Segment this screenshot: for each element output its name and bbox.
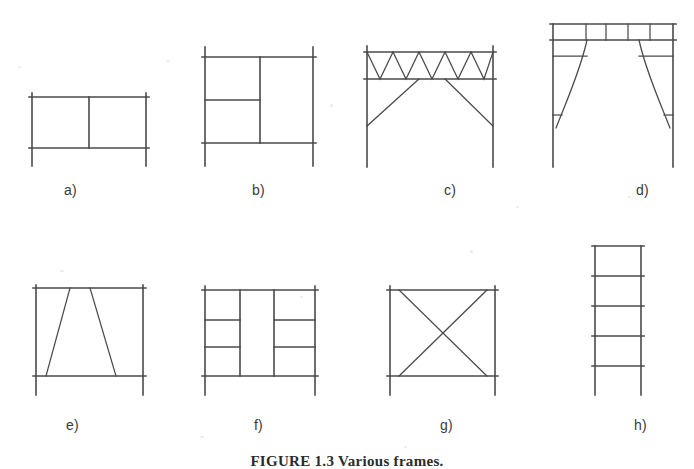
panel-c-truss-girder-frame-with-knee-braces xyxy=(356,40,504,170)
panel-e-frame-with-inverted-v-bracing xyxy=(28,280,152,398)
panel-label-g: g) xyxy=(440,417,453,433)
scan-speck xyxy=(470,250,473,253)
panel-a-single-story-two-bay-frame xyxy=(24,90,154,170)
scan-speck xyxy=(200,436,204,438)
figure-caption: FIGURE 1.3 Various frames. xyxy=(0,452,694,469)
panel-g-x-braced-frame xyxy=(382,282,504,398)
left-diagonal-brace xyxy=(46,288,70,376)
panel-label-a: a) xyxy=(64,182,77,198)
panel-e-drawing xyxy=(28,280,152,398)
scan-speck xyxy=(516,206,519,208)
panel-a-drawing xyxy=(24,90,154,170)
panel-label-d: d) xyxy=(636,182,649,198)
right-knee-brace xyxy=(445,79,493,126)
panel-d-drawing xyxy=(540,18,686,170)
panel-d-portal-frame-with-tapered-haunches xyxy=(540,18,686,170)
panel-label-b: b) xyxy=(252,182,265,198)
scan-speck xyxy=(60,270,64,272)
scan-speck xyxy=(166,60,170,62)
panel-f-drawing xyxy=(196,282,324,398)
panel-c-drawing xyxy=(356,40,504,170)
right-diagonal-brace xyxy=(90,288,116,376)
panel-f-three-bay-frame-with-side-floors xyxy=(196,282,324,398)
panel-h-drawing xyxy=(586,240,650,398)
figure-container: a) b) xyxy=(0,0,694,469)
truss-web-members xyxy=(367,52,493,79)
scan-speck xyxy=(18,66,21,68)
panel-label-c: c) xyxy=(444,182,456,198)
panel-b-two-bay-frame-with-split-left-bay xyxy=(196,44,322,170)
scan-speck xyxy=(404,446,407,448)
panel-label-h: h) xyxy=(634,417,647,433)
scan-speck xyxy=(330,104,333,107)
panel-label-f: f) xyxy=(254,417,263,433)
panel-g-drawing xyxy=(382,282,504,398)
scan-speck xyxy=(628,196,631,198)
panel-b-drawing xyxy=(196,44,322,170)
panel-h-multi-story-narrow-frame xyxy=(586,240,650,398)
left-knee-brace xyxy=(367,79,419,126)
panel-label-e: e) xyxy=(66,417,79,433)
